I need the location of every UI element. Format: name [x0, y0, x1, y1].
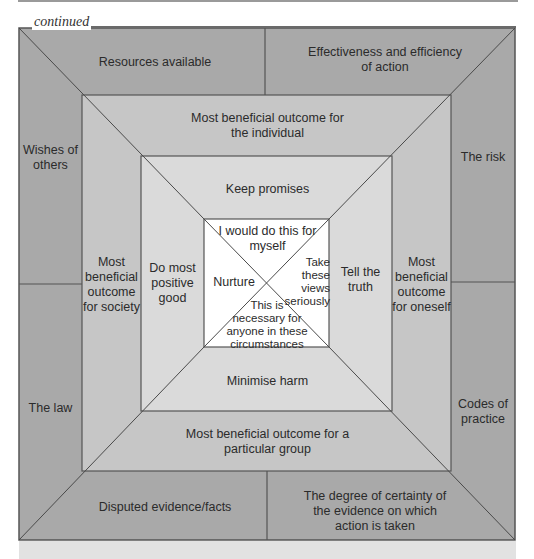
label-outcome-individual: Most beneficial outcome for the individu…	[150, 108, 385, 144]
label-degree-of-certainty: The degree of certainty of the evidence …	[275, 486, 475, 536]
label-necessary-for-anyone: This is necessary for anyone in these ci…	[216, 300, 318, 350]
label-wishes-of-others: Wishes of others	[19, 140, 82, 176]
label-the-law: The law	[19, 395, 82, 421]
label-do-most-positive-good: Do most positive good	[141, 256, 204, 310]
label-do-this-for-myself: I would do this for myself	[210, 223, 325, 255]
continued-label: continued	[32, 14, 91, 30]
label-tell-the-truth: Tell the truth	[329, 262, 392, 298]
label-effectiveness-efficiency: Effectiveness and efficiency of action	[285, 40, 485, 80]
label-resources-available: Resources available	[60, 44, 250, 80]
label-codes-of-practice: Codes of practice	[451, 394, 515, 430]
label-the-risk: The risk	[451, 145, 515, 169]
continued-rule	[88, 26, 516, 28]
label-disputed-evidence: Disputed evidence/facts	[70, 494, 260, 520]
nested-squares-diagram	[0, 0, 534, 559]
label-outcome-oneself: Most beneficial outcome for oneself	[392, 250, 451, 320]
label-nurture: Nurture	[206, 272, 262, 292]
label-outcome-particular-group: Most beneficial outcome for a particular…	[150, 424, 385, 460]
label-outcome-society: Most beneficial outcome for society	[82, 250, 141, 320]
label-minimise-harm: Minimise harm	[200, 370, 335, 392]
label-keep-promises: Keep promises	[200, 178, 335, 200]
